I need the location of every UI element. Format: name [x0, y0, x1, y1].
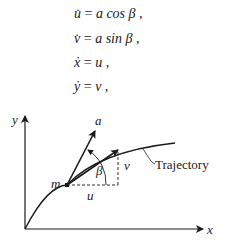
x-axis-label: x: [207, 222, 213, 238]
beta-label: β: [96, 163, 102, 179]
velocity-vector: [67, 150, 118, 185]
trajectory-curve: [25, 143, 175, 229]
mass-label: m: [51, 176, 60, 192]
u-label: u: [87, 188, 94, 204]
y-axis-label: y: [12, 112, 18, 128]
trajectory-label: Trajectory: [155, 157, 209, 173]
trajectory-diagram: [0, 0, 227, 245]
acceleration-vector: [67, 131, 95, 185]
acceleration-label: a: [95, 113, 102, 129]
trajectory-leader: [143, 149, 155, 164]
v-label: v: [124, 158, 130, 174]
